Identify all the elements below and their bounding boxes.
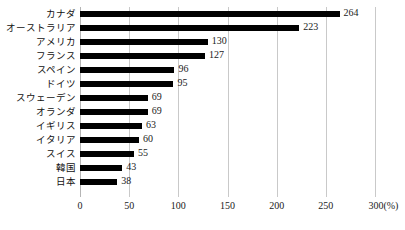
- bar-row[interactable]: 127: [80, 49, 375, 63]
- bar-row[interactable]: 69: [80, 105, 375, 119]
- bar-row[interactable]: 95: [80, 77, 375, 91]
- bar-value-label: 69: [152, 90, 162, 104]
- category-label: スペイン: [0, 63, 76, 77]
- x-tick-label: 100: [171, 199, 186, 213]
- category-label: オーストラリア: [0, 21, 76, 35]
- category-label: カナダ: [0, 7, 76, 21]
- category-label: イタリア: [0, 133, 76, 147]
- bar[interactable]: [80, 81, 173, 87]
- bar-row[interactable]: 55: [80, 147, 375, 161]
- bar-value-label: 55: [138, 146, 148, 160]
- bar-value-label: 43: [126, 160, 136, 174]
- bar-value-label: 130: [212, 34, 227, 48]
- bar[interactable]: [80, 123, 142, 129]
- bar-row[interactable]: 43: [80, 161, 375, 175]
- horizontal-bar-chart: カナダオーストラリアアメリカフランススペインドイツスウェーデンオランダイギリスイ…: [0, 0, 405, 230]
- bar[interactable]: [80, 151, 134, 157]
- bar[interactable]: [80, 39, 208, 45]
- bar[interactable]: [80, 95, 148, 101]
- bar-value-label: 63: [146, 118, 156, 132]
- bar-value-label: 69: [152, 104, 162, 118]
- gridline-300: [375, 7, 376, 197]
- plot-area: 264223130127969569696360554338: [80, 7, 375, 197]
- bar-row[interactable]: 69: [80, 91, 375, 105]
- category-label: フランス: [0, 49, 76, 63]
- x-tick-label: 50: [124, 199, 134, 213]
- bar[interactable]: [80, 179, 117, 185]
- bar-rows: 264223130127969569696360554338: [80, 7, 375, 197]
- category-axis-labels: カナダオーストラリアアメリカフランススペインドイツスウェーデンオランダイギリスイ…: [0, 7, 76, 197]
- category-label: 日本: [0, 175, 76, 189]
- bar[interactable]: [80, 11, 340, 17]
- category-label: 韓国: [0, 161, 76, 175]
- bar-value-label: 95: [177, 76, 187, 90]
- x-tick-label: 300(%): [368, 199, 398, 213]
- bar-row[interactable]: 223: [80, 21, 375, 35]
- x-tick-label: 0: [78, 199, 83, 213]
- bar[interactable]: [80, 25, 299, 31]
- category-label: ドイツ: [0, 77, 76, 91]
- bar[interactable]: [80, 165, 122, 171]
- category-label: イギリス: [0, 119, 76, 133]
- bar-value-label: 60: [143, 132, 153, 146]
- bar[interactable]: [80, 109, 148, 115]
- bar[interactable]: [80, 137, 139, 143]
- bar-row[interactable]: 63: [80, 119, 375, 133]
- bar-row[interactable]: 60: [80, 133, 375, 147]
- category-label: スイス: [0, 147, 76, 161]
- category-label: アメリカ: [0, 35, 76, 49]
- bar[interactable]: [80, 67, 174, 73]
- category-label: オランダ: [0, 105, 76, 119]
- bar-value-label: 96: [178, 62, 188, 76]
- bar-value-label: 223: [303, 20, 318, 34]
- bar-row[interactable]: 130: [80, 35, 375, 49]
- bar-value-label: 38: [121, 174, 131, 188]
- bar-value-label: 264: [344, 6, 359, 20]
- category-label: スウェーデン: [0, 91, 76, 105]
- x-tick-label: 250: [318, 199, 333, 213]
- x-tick-label: 150: [220, 199, 235, 213]
- bar-row[interactable]: 264: [80, 7, 375, 21]
- x-axis-tick-labels: 050100150200250300(%): [80, 199, 375, 219]
- bar[interactable]: [80, 53, 205, 59]
- bar-row[interactable]: 38: [80, 175, 375, 189]
- x-tick-label: 200: [269, 199, 284, 213]
- bar-value-label: 127: [209, 48, 224, 62]
- bar-row[interactable]: 96: [80, 63, 375, 77]
